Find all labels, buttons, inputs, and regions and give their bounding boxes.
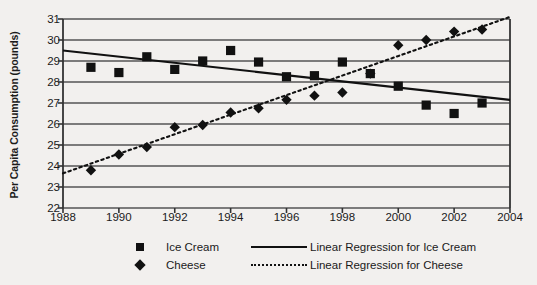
data-point-ice-cream-1996 bbox=[282, 72, 291, 81]
square-marker-icon bbox=[136, 243, 166, 251]
data-point-cheese-1998 bbox=[337, 87, 347, 97]
chart-legend: Ice Cream Linear Regression for Ice Crea… bbox=[136, 238, 476, 274]
chart-container: Per Capita Consumption (pounds) 22232425… bbox=[0, 0, 537, 285]
data-point-ice-cream-1991 bbox=[142, 52, 151, 61]
data-point-ice-cream-2003 bbox=[477, 98, 486, 107]
data-point-ice-cream-2001 bbox=[422, 101, 431, 110]
data-point-cheese-1997 bbox=[309, 90, 319, 100]
legend-row: Ice Cream Linear Regression for Ice Crea… bbox=[136, 238, 476, 256]
data-point-ice-cream-1992 bbox=[170, 65, 179, 74]
legend-row: Cheese Linear Regression for Cheese bbox=[136, 256, 476, 274]
data-point-ice-cream-1997 bbox=[310, 71, 319, 80]
data-point-cheese-2001 bbox=[421, 35, 431, 45]
legend-trendline-label: Linear Regression for Ice Cream bbox=[310, 241, 476, 253]
data-point-ice-cream-1993 bbox=[198, 56, 207, 65]
data-point-ice-cream-1994 bbox=[226, 46, 235, 55]
legend-series-label: Cheese bbox=[166, 259, 248, 271]
data-point-ice-cream-1990 bbox=[114, 68, 123, 77]
data-point-cheese-2000 bbox=[393, 40, 403, 50]
data-point-cheese-1990 bbox=[114, 149, 124, 159]
legend-series-label: Ice Cream bbox=[166, 241, 248, 253]
diamond-marker-icon bbox=[136, 261, 166, 269]
data-point-ice-cream-1995 bbox=[254, 57, 263, 66]
dotted-line-icon bbox=[248, 264, 310, 266]
data-point-ice-cream-1998 bbox=[338, 57, 347, 66]
data-point-ice-cream-2002 bbox=[450, 109, 459, 118]
data-point-cheese-1993 bbox=[197, 120, 207, 130]
data-point-ice-cream-2000 bbox=[394, 82, 403, 91]
data-point-ice-cream-1989 bbox=[86, 63, 95, 72]
legend-trendline-label: Linear Regression for Cheese bbox=[310, 259, 463, 271]
solid-line-icon bbox=[248, 246, 310, 248]
